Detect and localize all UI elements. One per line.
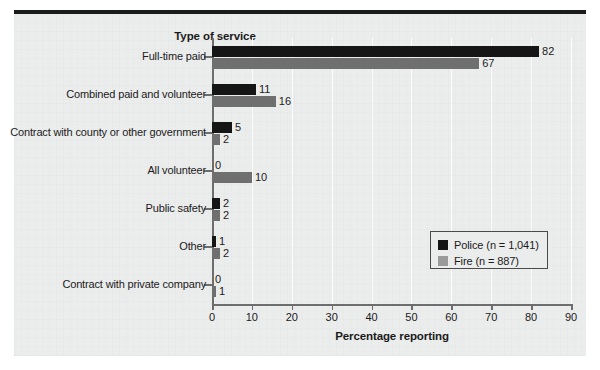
bar-value-label: 2 [223, 198, 229, 209]
x-tick-label: 10 [232, 311, 272, 323]
legend-item: Police (n = 1,041) [438, 238, 539, 252]
bar [212, 58, 479, 69]
category-label: Contract with private company [0, 278, 206, 290]
x-tick [212, 304, 214, 310]
bar-value-label: 2 [223, 248, 229, 259]
bar-value-label: 11 [259, 84, 270, 95]
bar-value-label: 82 [542, 46, 554, 57]
legend-item: Fire (n = 887) [438, 254, 519, 268]
bar-value-label: 0 [215, 274, 221, 285]
category-label: Contract with county or other government [0, 126, 206, 138]
bar-value-label: 67 [482, 58, 494, 69]
gridline [292, 38, 293, 304]
bar [212, 84, 256, 95]
x-tick [531, 304, 533, 310]
bar-value-label: 1 [219, 236, 225, 247]
bar [212, 96, 276, 107]
x-tick [372, 304, 374, 310]
x-tick [292, 304, 294, 310]
category-label: All volunteer [0, 164, 206, 176]
category-label: Other [0, 240, 206, 252]
bar-value-label: 1 [219, 286, 225, 297]
x-tick-label: 20 [272, 311, 312, 323]
x-tick [252, 304, 254, 310]
legend-label: Police (n = 1,041) [454, 239, 539, 251]
bar-value-label: 10 [255, 172, 267, 183]
x-tick [491, 304, 493, 310]
x-tick [571, 304, 573, 310]
x-tick [451, 304, 453, 310]
x-axis-line [212, 304, 572, 306]
x-tick [411, 304, 413, 310]
legend-swatch-icon [438, 256, 448, 266]
bar [212, 134, 220, 145]
chart-legend: Police (n = 1,041)Fire (n = 887) [430, 231, 548, 269]
x-axis-title: Percentage reporting [212, 330, 572, 342]
bar-value-label: 0 [215, 160, 221, 171]
x-tick-label: 30 [312, 311, 352, 323]
gridline [332, 38, 333, 304]
bar [212, 46, 539, 57]
bar [212, 198, 220, 209]
bar-value-label: 2 [223, 210, 229, 221]
bar [212, 286, 216, 297]
bar-value-label: 16 [279, 96, 291, 107]
legend-swatch-icon [438, 240, 448, 250]
gridline [571, 38, 572, 304]
bar [212, 210, 220, 221]
bar-value-label: 2 [223, 134, 229, 145]
category-label: Public safety [0, 202, 206, 214]
x-tick-label: 90 [551, 311, 591, 323]
gridline [372, 38, 373, 304]
chart-figure: Type of service 0102030405060708090 Full… [0, 0, 600, 370]
bar-value-label: 5 [235, 122, 241, 133]
bar [212, 172, 252, 183]
bar [212, 236, 216, 247]
x-tick-label: 80 [511, 311, 551, 323]
x-tick-label: 70 [471, 311, 511, 323]
bar [212, 122, 232, 133]
gridline [411, 38, 412, 304]
x-tick-label: 60 [431, 311, 471, 323]
category-label: Full-time paid [0, 50, 206, 62]
category-label: Combined paid and volunteer [0, 88, 206, 100]
x-tick-label: 40 [352, 311, 392, 323]
gridline [252, 38, 253, 304]
x-tick [332, 304, 334, 310]
x-tick-label: 50 [391, 311, 431, 323]
legend-label: Fire (n = 887) [454, 255, 519, 267]
bar [212, 248, 220, 259]
x-tick-label: 0 [192, 311, 232, 323]
